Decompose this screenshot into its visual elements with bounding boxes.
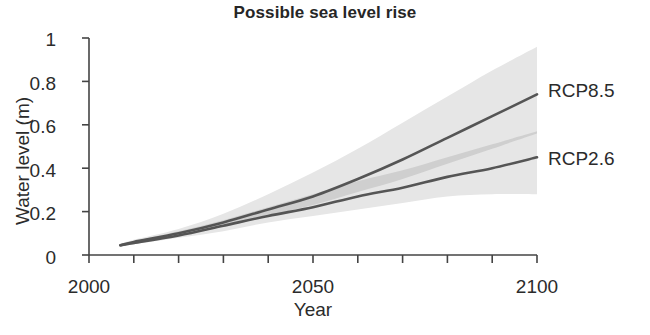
- band-rcp85: [120, 47, 537, 247]
- chart-figure: Possible sea level rise Water level (m) …: [0, 0, 650, 335]
- plot-area: [0, 0, 650, 335]
- uncertainty-bands: [120, 47, 537, 247]
